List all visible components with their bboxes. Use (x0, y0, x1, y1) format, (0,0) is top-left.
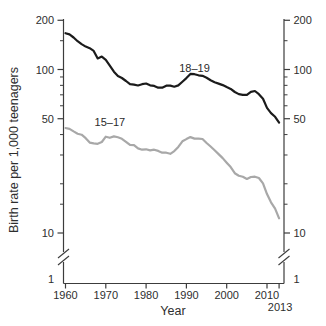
y-tick-label-right: 50 (294, 113, 306, 125)
series-label-18-19: 18–19 (179, 62, 210, 74)
x-tick-label: 2000 (214, 289, 238, 301)
y-axis-title: Birth rate per 1,000 teenagers (7, 67, 21, 233)
plot-area: 2002001001005050101011196019701980199020… (0, 0, 326, 326)
y-tick-label-right: 100 (294, 64, 312, 76)
series-line-18-19 (66, 33, 280, 123)
y-tick-label-right: 200 (294, 14, 312, 26)
series-label-15-17: 15–17 (95, 116, 126, 128)
x-axis-title: Year (160, 304, 185, 318)
x-tick-label: 2010 (255, 289, 279, 301)
series-line-15-17 (66, 128, 280, 218)
x-tick-label: 1990 (174, 289, 198, 301)
x-tick-label: 1960 (53, 289, 77, 301)
y-origin-label-left: 1 (48, 273, 54, 285)
x-tick-label: 1980 (134, 289, 158, 301)
y-tick-label-left: 100 (36, 64, 54, 76)
teen-birth-rate-chart: 2002001001005050101011196019701980199020… (0, 0, 326, 326)
x-tick-label: 2013 (268, 301, 292, 313)
y-tick-label-left: 50 (42, 113, 54, 125)
y-tick-label-left: 10 (42, 227, 54, 239)
y-tick-label-left: 200 (36, 14, 54, 26)
y-origin-label-right: 1 (294, 273, 300, 285)
x-tick-label: 1970 (94, 289, 118, 301)
y-tick-label-right: 10 (294, 227, 306, 239)
